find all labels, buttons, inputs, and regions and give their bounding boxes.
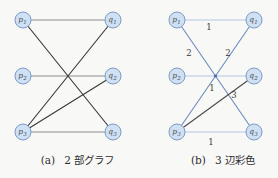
caption-a-text: 2 部グラフ bbox=[64, 154, 114, 166]
edge-label-p1-q3: 2 bbox=[186, 48, 191, 58]
edge-p3-q2 bbox=[177, 76, 254, 132]
graph-a-bipartite: p1p2p3q1q2q3 bbox=[15, 12, 121, 140]
graph-b-edge-coloring: 111223p1p2p3q1q2q3 bbox=[169, 12, 262, 147]
edge-label-p3-q2: 3 bbox=[231, 90, 236, 100]
edge-label-p2-q2: 1 bbox=[209, 83, 214, 93]
caption-b-index: (b) bbox=[191, 154, 206, 166]
edge-label-p1-q1: 1 bbox=[206, 22, 211, 32]
edge-p3-q2 bbox=[23, 76, 113, 132]
caption-b-text: 3 辺彩色 bbox=[215, 154, 255, 166]
caption-a: (a)2 部グラフ bbox=[15, 152, 140, 168]
edge-crossing-dot bbox=[214, 74, 217, 77]
caption-a-index: (a) bbox=[41, 154, 55, 166]
edge-label-p3-q1: 2 bbox=[225, 48, 230, 58]
edge-label-p3-q3: 1 bbox=[208, 137, 213, 147]
caption-b: (b)3 辺彩色 bbox=[160, 152, 278, 168]
figure-bipartite-edge-coloring: p1p2p3q1q2q3 111223p1p2p3q1q2q3 (a)2 部グラ… bbox=[0, 0, 278, 178]
